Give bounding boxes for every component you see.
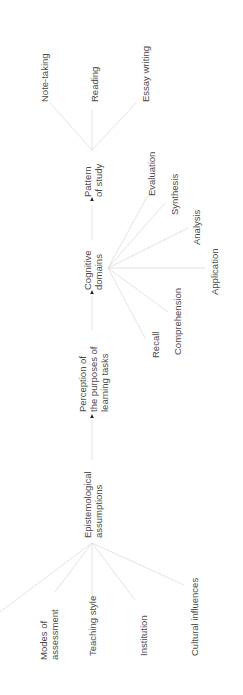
link-cultural-influences bbox=[92, 543, 184, 585]
node-line: Comprehension bbox=[172, 288, 183, 355]
node-line: Pattern bbox=[82, 164, 93, 197]
link-institution bbox=[92, 543, 135, 600]
node-line: Note-taking bbox=[39, 53, 50, 102]
node-line: Reading bbox=[89, 67, 100, 102]
study-note-taking: Note-taking bbox=[39, 53, 50, 102]
node-line: learning tasks bbox=[99, 347, 110, 413]
link-note-taking bbox=[50, 103, 92, 150]
arrow-to-cognitive bbox=[90, 290, 94, 294]
influence-modes-of-assessment: Modes of assessment bbox=[38, 609, 60, 660]
study-reading: Reading bbox=[89, 67, 100, 102]
node-line: domains bbox=[93, 250, 104, 290]
node-cognitive-domains: Cognitive domains bbox=[82, 250, 104, 290]
arrow-to-pattern bbox=[90, 197, 94, 201]
node-line: Recall bbox=[150, 332, 161, 358]
node-line: Modes of bbox=[38, 609, 49, 660]
domain-analysis: Analysis bbox=[191, 210, 202, 245]
node-line: Application bbox=[209, 249, 220, 295]
domain-application: Application bbox=[209, 249, 220, 295]
node-line: Synthesis bbox=[169, 174, 180, 215]
node-line: the purposes of bbox=[88, 347, 99, 413]
node-line: Analysis bbox=[191, 210, 202, 245]
influence-institution: Institution bbox=[138, 615, 149, 656]
link-evaluation bbox=[108, 195, 148, 268]
link-analysis bbox=[108, 228, 188, 268]
influence-teaching-style: Teaching style bbox=[87, 596, 98, 656]
domain-synthesis: Synthesis bbox=[169, 174, 180, 215]
link-comprehension bbox=[108, 268, 168, 312]
node-epistemological-assumptions: Epistemological assumptions bbox=[82, 471, 104, 538]
node-line: Perception of bbox=[77, 347, 88, 413]
node-line: assumptions bbox=[93, 471, 104, 538]
link-essay-writing bbox=[92, 103, 136, 150]
node-line: Cognitive bbox=[82, 250, 93, 290]
node-line: Evaluation bbox=[146, 152, 157, 196]
node-pattern-of-study: Pattern of study bbox=[82, 164, 104, 197]
arrow-to-perception bbox=[90, 414, 94, 418]
node-line: assessment bbox=[49, 609, 60, 660]
connector-layer bbox=[0, 0, 243, 695]
domain-evaluation: Evaluation bbox=[146, 152, 157, 196]
influence-cultural-influences: Cultural influences bbox=[189, 578, 200, 656]
link-modes-of-assessment bbox=[55, 543, 92, 592]
link-recall bbox=[108, 268, 145, 338]
node-perception-of-purposes: Perception of the purposes of learning t… bbox=[77, 347, 110, 413]
link-offscreen-influence bbox=[0, 543, 92, 612]
domain-recall: Recall bbox=[150, 332, 161, 358]
study-essay-writing: Essay writing bbox=[140, 46, 151, 102]
node-line: of study bbox=[93, 164, 104, 197]
link-synthesis bbox=[108, 203, 165, 268]
domain-comprehension: Comprehension bbox=[172, 288, 183, 355]
node-line: Cultural influences bbox=[189, 578, 200, 656]
node-line: Epistemological bbox=[82, 471, 93, 538]
node-line: Essay writing bbox=[140, 46, 151, 102]
node-line: Institution bbox=[138, 615, 149, 656]
node-line: Teaching style bbox=[87, 596, 98, 656]
